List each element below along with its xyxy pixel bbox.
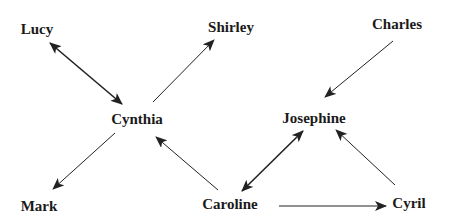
node-shirley: Shirley [208, 20, 254, 35]
edge-caroline-josephine [242, 131, 303, 191]
edge-cyril-josephine [336, 130, 395, 185]
node-caroline: Caroline [202, 197, 258, 212]
edge-cynthia-mark [53, 133, 115, 189]
node-cynthia: Cynthia [111, 112, 163, 127]
edge-caroline-cynthia [156, 137, 218, 190]
node-lucy: Lucy [21, 22, 54, 37]
node-cyril: Cyril [392, 196, 425, 211]
edge-charles-josephine [325, 41, 393, 97]
node-mark: Mark [21, 199, 58, 214]
edge-cynthia-shirley [153, 40, 214, 102]
node-josephine: Josephine [282, 111, 345, 126]
graph-canvas: Lucy Shirley Charles Cynthia Josephine M… [0, 0, 449, 222]
edge-lucy-cynthia [50, 43, 122, 104]
node-charles: Charles [372, 17, 422, 32]
